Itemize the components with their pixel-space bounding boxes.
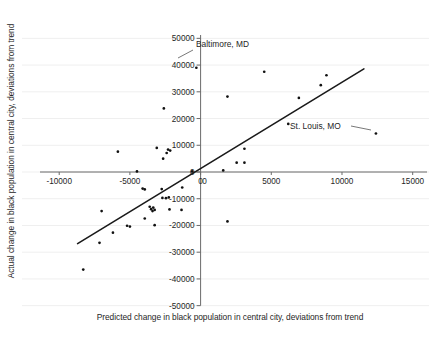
- data-point: [243, 161, 246, 164]
- data-point: [143, 217, 146, 220]
- x-tick-label: -5000: [119, 177, 140, 186]
- data-point: [195, 66, 198, 69]
- y-tick-label: 20000: [172, 115, 195, 124]
- annotation-leader-line: [351, 126, 371, 130]
- data-point: [191, 170, 194, 173]
- data-point: [319, 84, 322, 87]
- y-tick-label: -10000: [169, 195, 195, 204]
- trend-line: [78, 69, 364, 244]
- y-tick-label: 30000: [172, 88, 195, 97]
- annotation-leader-line: [178, 50, 193, 58]
- data-point: [155, 147, 158, 150]
- data-point: [82, 268, 85, 271]
- data-point: [181, 186, 184, 189]
- data-point: [263, 70, 266, 73]
- data-point: [151, 210, 154, 213]
- data-point: [375, 132, 378, 135]
- y-tick-label: 50000: [172, 34, 195, 43]
- data-point: [222, 169, 225, 172]
- data-point: [168, 208, 171, 211]
- y-tick-label: 40000: [172, 61, 195, 70]
- data-point: [112, 231, 115, 234]
- plot-area: -10000-500005000100001500050000400003000…: [0, 0, 431, 338]
- x-tick-label: -10000: [46, 177, 72, 186]
- data-point: [162, 107, 165, 110]
- data-point: [161, 197, 164, 200]
- x-origin-label: 0: [202, 177, 207, 186]
- data-points: [82, 66, 377, 271]
- data-point: [98, 241, 101, 244]
- data-point: [160, 188, 163, 191]
- regression-line: [78, 69, 364, 244]
- data-point: [169, 149, 172, 152]
- y-tick-label: 10000: [172, 141, 195, 150]
- data-point: [298, 97, 301, 100]
- y-tick-label: -50000: [169, 302, 195, 311]
- data-point: [126, 224, 129, 227]
- data-point: [100, 210, 103, 213]
- data-point: [148, 205, 151, 208]
- y-tick-label: -40000: [169, 275, 195, 284]
- y-tick-label: -30000: [169, 248, 195, 257]
- data-point: [165, 197, 168, 200]
- axis-lines: [40, 35, 427, 306]
- data-point: [226, 95, 229, 98]
- data-point: [180, 209, 183, 212]
- y-tick-label: -20000: [169, 221, 195, 230]
- annotation-label: Baltimore, MD: [196, 39, 249, 49]
- x-tick-label: 10000: [331, 177, 354, 186]
- data-point: [243, 147, 246, 150]
- data-point: [167, 196, 170, 199]
- annotation-label: St. Louis, MO: [290, 121, 341, 131]
- x-tick-label: 5000: [262, 177, 281, 186]
- x-tick-label: 15000: [401, 177, 424, 186]
- data-point: [325, 74, 328, 77]
- data-point: [235, 161, 238, 164]
- data-point: [117, 150, 120, 153]
- data-point: [129, 225, 132, 228]
- data-point: [153, 224, 156, 227]
- data-point: [165, 152, 168, 155]
- data-point: [226, 220, 229, 223]
- data-point: [136, 170, 139, 173]
- scatter-plot-figure: Actual change in black population in cen…: [0, 0, 431, 338]
- point-annotations: Baltimore, MDSt. Louis, MO: [178, 39, 371, 131]
- data-point: [162, 157, 165, 160]
- data-point: [143, 188, 146, 191]
